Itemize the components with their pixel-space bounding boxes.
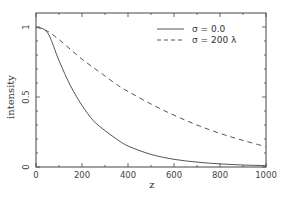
x-tick-label: 800 (212, 170, 228, 180)
y-axis-label: intensity (5, 75, 16, 119)
x-tick-label: 600 (166, 170, 182, 180)
legend-label-sigma-200: σ = 200 λ (192, 35, 237, 45)
chart: 0200400600800100000.51 z intensity σ = 0… (0, 0, 286, 199)
series-lines (36, 27, 266, 166)
tick-labels: 0200400600800100000.51 (21, 24, 277, 180)
x-tick-label: 0 (33, 170, 38, 180)
y-tick-label: 0 (21, 164, 31, 169)
y-tick-label: 1 (21, 24, 31, 29)
x-tick-label: 200 (74, 170, 90, 180)
x-tick-label: 400 (120, 170, 136, 180)
legend-label-sigma-0: σ = 0.0 (192, 24, 226, 34)
series-sigma-0-line (36, 27, 266, 166)
legend: σ = 0.0 σ = 200 λ (157, 24, 237, 45)
x-tick-label: 1000 (255, 170, 277, 180)
y-tick-label: 0.5 (21, 90, 31, 104)
x-axis-label: z (149, 179, 154, 190)
